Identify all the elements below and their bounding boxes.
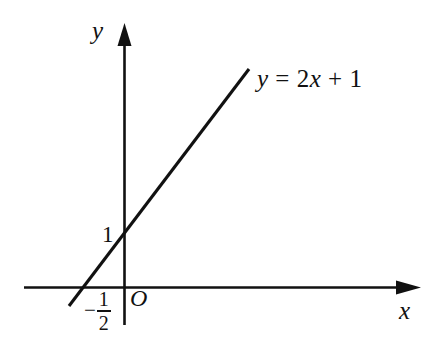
graph-canvas (0, 0, 446, 342)
y-intercept-tick-label: 1 (102, 223, 114, 246)
equation-constant: 1 (349, 65, 362, 92)
function-line-y-equals-2x-plus-1 (69, 69, 249, 306)
x-axis-label: x (399, 298, 410, 323)
equation-coefficient: 2 (297, 65, 310, 92)
x-intercept-tick-label: − 1 2 (84, 289, 111, 333)
x-axis-arrowhead-icon (396, 281, 421, 295)
fraction-numerator: 1 (97, 289, 111, 309)
y-axis-arrowhead-icon (118, 23, 132, 46)
y-axis-label: y (92, 18, 103, 43)
fraction-denominator: 2 (97, 313, 111, 333)
equation-variable-x: x (310, 65, 322, 92)
equation-annotation: y = 2x + 1 (257, 66, 362, 91)
origin-label: O (130, 286, 147, 310)
x-intercept-minus-sign: − (84, 300, 96, 321)
equation-equals-sign: = (275, 65, 290, 92)
equation-variable-y: y (257, 65, 269, 92)
linear-function-graph-figure: y x O 1 y = 2x + 1 − 1 2 (0, 0, 446, 342)
x-intercept-fraction: 1 2 (97, 289, 111, 333)
equation-plus-sign: + (328, 65, 343, 92)
